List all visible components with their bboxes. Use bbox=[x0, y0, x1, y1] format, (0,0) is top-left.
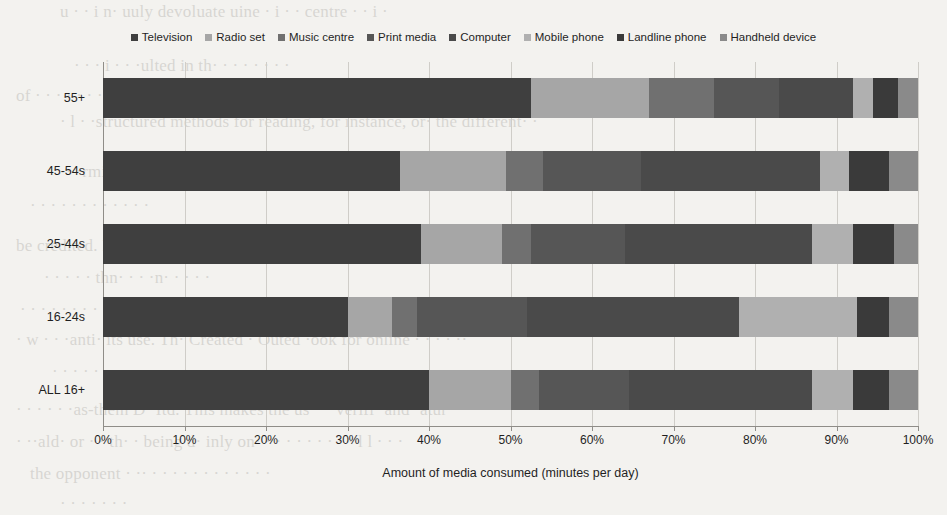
bar-segment[interactable] bbox=[857, 297, 890, 337]
legend-item[interactable]: Television bbox=[131, 31, 193, 43]
bar-segment[interactable] bbox=[348, 297, 393, 337]
bar-segment[interactable] bbox=[103, 370, 429, 410]
x-axis-tick-label: 60% bbox=[580, 433, 604, 447]
bar-segment[interactable] bbox=[849, 151, 890, 191]
x-axis-tick bbox=[592, 426, 593, 431]
bar-segment[interactable] bbox=[539, 370, 629, 410]
bar-row bbox=[103, 208, 918, 281]
bar-segment[interactable] bbox=[853, 78, 873, 118]
bar-segment[interactable] bbox=[506, 151, 543, 191]
stacked-bar[interactable] bbox=[103, 297, 918, 337]
legend-swatch-icon bbox=[205, 34, 212, 41]
bar-segment[interactable] bbox=[812, 224, 853, 264]
legend-item[interactable]: Mobile phone bbox=[524, 31, 604, 43]
legend-swatch-icon bbox=[131, 34, 138, 41]
x-axis-tick bbox=[429, 426, 430, 431]
bar-segment[interactable] bbox=[531, 78, 649, 118]
legend-swatch-icon bbox=[720, 34, 727, 41]
bar-segment[interactable] bbox=[103, 224, 421, 264]
y-axis-label: 25-44s bbox=[0, 208, 95, 281]
bar-segment[interactable] bbox=[103, 151, 400, 191]
x-axis-tick bbox=[185, 426, 186, 431]
bar-segment[interactable] bbox=[502, 224, 531, 264]
bar-segment[interactable] bbox=[103, 297, 348, 337]
bar-segment[interactable] bbox=[889, 370, 918, 410]
bar-segment[interactable] bbox=[739, 297, 857, 337]
bar-segment[interactable] bbox=[511, 370, 540, 410]
y-axis-label: 45-54s bbox=[0, 135, 95, 208]
bar-segment[interactable] bbox=[429, 370, 511, 410]
bar-segment[interactable] bbox=[400, 151, 506, 191]
bar-rows bbox=[103, 62, 918, 426]
legend-label: Music centre bbox=[289, 31, 354, 43]
bar-segment[interactable] bbox=[812, 370, 853, 410]
bar-segment[interactable] bbox=[853, 370, 890, 410]
stacked-bar[interactable] bbox=[103, 224, 918, 264]
x-axis-tick-label: 20% bbox=[254, 433, 278, 447]
legend-item[interactable]: Radio set bbox=[205, 31, 265, 43]
x-axis-tick-label: 0% bbox=[94, 433, 111, 447]
plot-area bbox=[103, 62, 918, 426]
x-axis-tick bbox=[348, 426, 349, 431]
legend-swatch-icon bbox=[278, 34, 285, 41]
x-axis-tick-label: 10% bbox=[172, 433, 196, 447]
legend-item[interactable]: Landline phone bbox=[617, 31, 707, 43]
legend-label: Print media bbox=[378, 31, 436, 43]
x-axis-tick bbox=[837, 426, 838, 431]
legend-item[interactable]: Print media bbox=[367, 31, 436, 43]
x-axis-tick-label: 100% bbox=[903, 433, 934, 447]
legend-swatch-icon bbox=[524, 34, 531, 41]
bar-segment[interactable] bbox=[889, 297, 918, 337]
stacked-bar[interactable] bbox=[103, 370, 918, 410]
bar-segment[interactable] bbox=[629, 370, 812, 410]
bar-segment[interactable] bbox=[392, 297, 416, 337]
legend-item[interactable]: Handheld device bbox=[720, 31, 817, 43]
bar-segment[interactable] bbox=[531, 224, 625, 264]
bar-segment[interactable] bbox=[853, 224, 894, 264]
x-axis-ticks bbox=[103, 426, 918, 431]
bar-segment[interactable] bbox=[894, 224, 918, 264]
legend-item[interactable]: Computer bbox=[449, 31, 511, 43]
bar-segment[interactable] bbox=[889, 151, 918, 191]
bar-segment[interactable] bbox=[543, 151, 641, 191]
legend-swatch-icon bbox=[449, 34, 456, 41]
legend-swatch-icon bbox=[367, 34, 374, 41]
x-axis-tick-label: 80% bbox=[743, 433, 767, 447]
bar-segment[interactable] bbox=[873, 78, 897, 118]
legend-swatch-icon bbox=[617, 34, 624, 41]
bar-segment[interactable] bbox=[103, 78, 531, 118]
bar-row bbox=[103, 62, 918, 135]
x-axis-tick-label: 90% bbox=[824, 433, 848, 447]
bar-segment[interactable] bbox=[714, 78, 779, 118]
bar-segment[interactable] bbox=[820, 151, 849, 191]
bar-segment[interactable] bbox=[417, 297, 527, 337]
legend-label: Handheld device bbox=[731, 31, 817, 43]
x-axis-tick bbox=[103, 426, 104, 431]
bar-row bbox=[103, 280, 918, 353]
y-axis-category-labels: 55+45-54s25-44s16-24sALL 16+ bbox=[0, 62, 95, 426]
chart-legend: TelevisionRadio setMusic centrePrint med… bbox=[0, 31, 947, 43]
bar-segment[interactable] bbox=[649, 78, 714, 118]
y-axis-label: 55+ bbox=[0, 62, 95, 135]
bar-segment[interactable] bbox=[527, 297, 739, 337]
bar-segment[interactable] bbox=[898, 78, 918, 118]
legend-label: Landline phone bbox=[628, 31, 707, 43]
bar-segment[interactable] bbox=[641, 151, 820, 191]
x-axis-tick bbox=[266, 426, 267, 431]
legend-label: Television bbox=[142, 31, 193, 43]
x-axis-tick bbox=[674, 426, 675, 431]
stacked-bar-chart: TelevisionRadio setMusic centrePrint med… bbox=[0, 0, 947, 515]
legend-label: Computer bbox=[460, 31, 511, 43]
bar-segment[interactable] bbox=[625, 224, 812, 264]
x-axis-title: Amount of media consumed (minutes per da… bbox=[103, 466, 918, 480]
bar-segment[interactable] bbox=[779, 78, 852, 118]
gridline bbox=[918, 62, 919, 426]
y-axis-label: 16-24s bbox=[0, 280, 95, 353]
x-axis-tick-label: 70% bbox=[661, 433, 685, 447]
stacked-bar[interactable] bbox=[103, 151, 918, 191]
legend-item[interactable]: Music centre bbox=[278, 31, 354, 43]
x-axis-tick bbox=[755, 426, 756, 431]
y-axis-label: ALL 16+ bbox=[0, 353, 95, 426]
stacked-bar[interactable] bbox=[103, 78, 918, 118]
bar-segment[interactable] bbox=[421, 224, 503, 264]
